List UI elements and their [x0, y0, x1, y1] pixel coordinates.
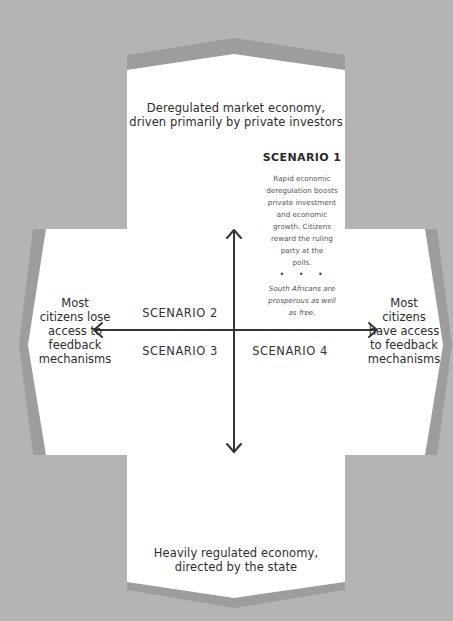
- top-axis-label-line: Deregulated market economy,: [127, 101, 345, 115]
- scenario-1-description-line: reward the ruling: [252, 233, 352, 245]
- scenario-1-separator: • • •: [252, 270, 356, 279]
- left-axis-label-line: citizens lose: [34, 310, 116, 324]
- bottom-axis-label: Heavily regulated economy, directed by t…: [127, 546, 345, 574]
- scenario-1-description-line: private investment: [252, 197, 352, 209]
- scenario-1-description-line: party at the: [252, 245, 352, 257]
- right-axis-label-line: have access: [363, 324, 445, 338]
- scenario-2-title: SCENARIO 2: [130, 306, 230, 320]
- right-axis-label: Most citizens have access to feedback me…: [363, 296, 445, 366]
- left-axis-label-line: mechanisms: [34, 352, 116, 366]
- right-axis-label-line: citizens: [363, 310, 445, 324]
- scenario-1-description-line: deregulation boosts: [252, 185, 352, 197]
- left-axis-label: Most citizens lose access to feedback me…: [34, 296, 116, 366]
- scenario-1-description-line: growth. Citizens: [252, 221, 352, 233]
- scenario-3-title: SCENARIO 3: [130, 344, 230, 358]
- scenario-1-description-line: and economic: [252, 209, 352, 221]
- right-axis-label-line: Most: [363, 296, 445, 310]
- top-axis-label-line: driven primarily by private investors: [127, 115, 345, 129]
- scenario-1-outcome-line: as free.: [252, 307, 352, 319]
- right-axis-label-line: mechanisms: [363, 352, 445, 366]
- scenario-1-description-line: Rapid economic: [252, 173, 352, 185]
- scenario-1-outcome-line: prosperous as well: [252, 295, 352, 307]
- right-axis-label-line: to feedback: [363, 338, 445, 352]
- scenario-1-description: Rapid economic deregulation boosts priva…: [252, 173, 352, 269]
- left-axis-label-line: feedback: [34, 338, 116, 352]
- bottom-axis-label-line: Heavily regulated economy,: [127, 546, 345, 560]
- top-axis-label: Deregulated market economy, driven prima…: [127, 101, 345, 129]
- scenario-1-outcome: South Africans are prosperous as well as…: [252, 283, 352, 319]
- scenario-1-description-line: polls.: [252, 257, 352, 269]
- scenario-1-outcome-line: South Africans are: [252, 283, 352, 295]
- scenario-4-title: SCENARIO 4: [240, 344, 340, 358]
- scenario-1-title: SCENARIO 1: [252, 151, 352, 164]
- left-axis-label-line: Most: [34, 296, 116, 310]
- left-axis-label-line: access to: [34, 324, 116, 338]
- bottom-axis-label-line: directed by the state: [127, 560, 345, 574]
